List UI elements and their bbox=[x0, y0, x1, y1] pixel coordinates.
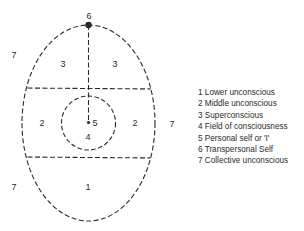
label-4-field: 4 bbox=[85, 133, 90, 142]
label-6-top: 6 bbox=[86, 12, 91, 21]
legend-item: 5 Personal self or 'I' bbox=[198, 133, 288, 144]
legend-item: 3 Superconscious bbox=[198, 110, 288, 121]
lower-boundary-line bbox=[20, 157, 160, 158]
legend-item: 6 Transpersonal Self bbox=[198, 144, 288, 155]
label-2-left: 2 bbox=[39, 119, 44, 128]
personal-self-dot bbox=[87, 121, 90, 124]
legend-item: 1 Lower unconscious bbox=[198, 87, 288, 98]
label-7-right: 7 bbox=[169, 120, 174, 129]
legend: 1 Lower unconscious 2 Middle unconscious… bbox=[198, 87, 288, 167]
label-7-bottom-left: 7 bbox=[11, 183, 16, 192]
transpersonal-self-dot bbox=[85, 22, 91, 28]
legend-item: 7 Collective unconscious bbox=[198, 155, 288, 166]
label-7-top-left: 7 bbox=[11, 51, 16, 60]
label-3-left: 3 bbox=[60, 60, 65, 69]
upper-boundary-line bbox=[20, 88, 160, 89]
label-5-self: 5 bbox=[92, 119, 97, 128]
legend-item: 2 Middle unconscious bbox=[198, 98, 288, 109]
label-3-right: 3 bbox=[112, 60, 117, 69]
label-2-right: 2 bbox=[132, 119, 137, 128]
label-1-bottom: 1 bbox=[85, 183, 90, 192]
legend-item: 4 Field of consciousness bbox=[198, 121, 288, 132]
